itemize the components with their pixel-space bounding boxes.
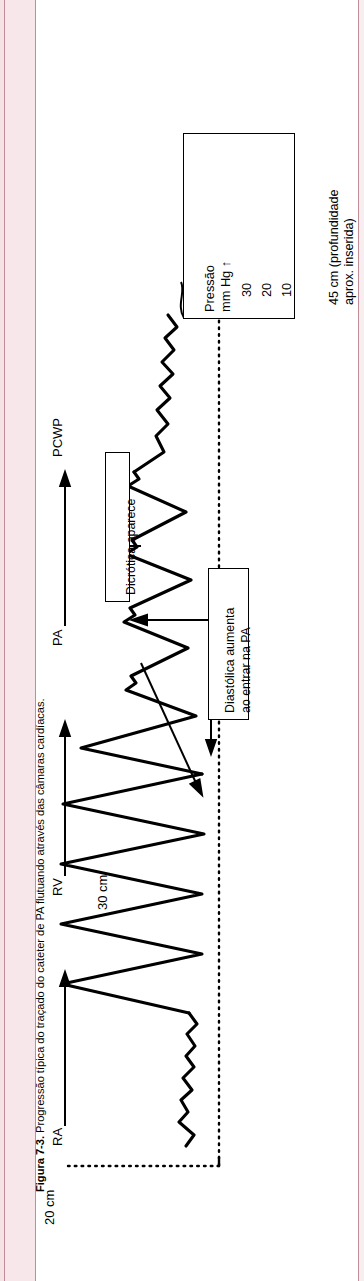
pressure-tick-20: 20 <box>259 283 274 297</box>
depth-marker-20cm: 20 cm <box>42 1190 58 1225</box>
pressure-axis-label-line2: mm Hg ↑ <box>218 261 234 312</box>
pointer-diastolic-shoulder <box>132 615 211 625</box>
arrow-pa-pcwp <box>60 472 70 626</box>
arrow-ra-rv <box>60 972 70 1126</box>
pressure-tick-30: 30 <box>239 283 254 297</box>
depth-marker-45cm-line2: aprox. inserida) <box>342 218 357 305</box>
depth-marker-45cm-line1: 45 cm (profundidade <box>327 189 342 305</box>
chamber-label-pcwp: PCWP <box>50 418 66 457</box>
figure-canvas: RA RV PA PCWP 20 cm 30 cm 45 cm (profund… <box>36 0 358 1281</box>
depth-marker-30cm: 30 cm <box>95 875 111 910</box>
annotation-diastolic-line2: ao entrar na PA <box>239 627 254 713</box>
page-edge-right <box>359 0 364 1281</box>
pressure-tick-10: 10 <box>279 283 294 297</box>
pressure-axis-label-line1: Pressão <box>202 265 218 312</box>
chamber-label-pa: PA <box>50 630 66 646</box>
chamber-label-rv: RV <box>50 878 66 896</box>
annotation-dicrotic-text: Dicrótica aparece <box>124 499 139 595</box>
chamber-arrows <box>60 472 70 1126</box>
pressure-waveform <box>61 315 204 1146</box>
arrow-rv-pa <box>60 722 70 876</box>
annotation-diastolic-line1: Diastólica aumenta <box>223 608 238 713</box>
chamber-label-ra: RA <box>50 1128 66 1146</box>
page-tint-strip <box>5 0 35 1281</box>
